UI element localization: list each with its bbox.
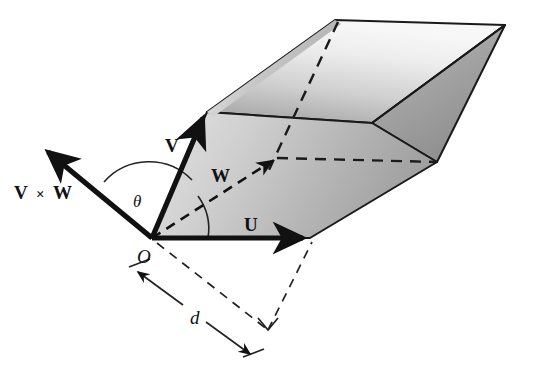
- label-cross-product-v: V: [14, 182, 28, 203]
- label-cross-product-w: W: [53, 182, 73, 203]
- dimension-arrow-right: [206, 322, 250, 354]
- label-vector-w: W: [211, 165, 231, 186]
- diagram-canvas: V × W V W U O θ d: [0, 0, 541, 382]
- construction-line-origin-to-foot: [157, 243, 268, 330]
- label-angle-theta: θ: [133, 192, 141, 211]
- cross-product-symbol-icon: ×: [36, 186, 45, 202]
- label-distance-d: d: [190, 307, 200, 328]
- label-vector-u: U: [244, 214, 258, 235]
- dimension-construction: [129, 242, 312, 357]
- construction-line-foot-to-base: [268, 242, 312, 330]
- label-origin: O: [137, 246, 151, 267]
- label-vector-v: V: [165, 135, 179, 156]
- vector-diagram-figure: V × W V W U O θ d: [0, 0, 541, 382]
- parallelepiped-solid: [152, 20, 505, 238]
- dimension-arrow-left: [138, 272, 183, 305]
